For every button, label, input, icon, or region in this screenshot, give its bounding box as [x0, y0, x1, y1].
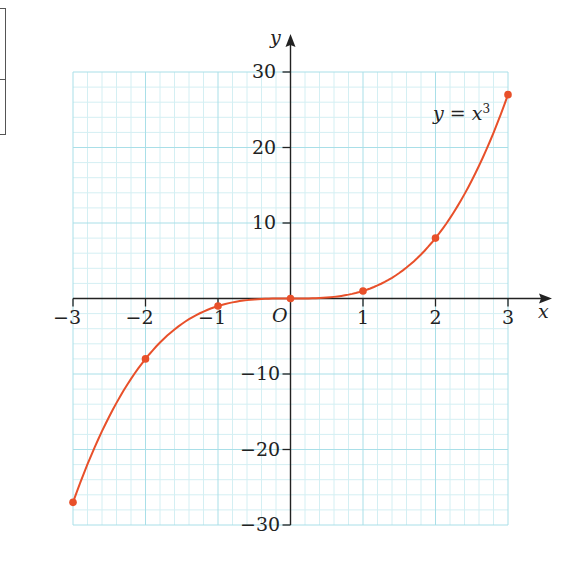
x-tick-label: 1 [357, 306, 369, 328]
x-tick-label: −2 [126, 306, 154, 328]
x-tick-label: −3 [53, 306, 81, 328]
x-axis-label: x [538, 300, 549, 322]
y-tick-label: −30 [240, 513, 280, 535]
x-tick-label: −1 [198, 306, 226, 328]
y-tick-label: 30 [252, 60, 276, 82]
cubic-function-graph [0, 0, 579, 564]
origin-label: O [272, 304, 288, 326]
y-tick-label: −20 [240, 438, 280, 460]
x-tick-label: 2 [430, 306, 442, 328]
y-tick-label: −10 [240, 362, 280, 384]
y-axis-label: y [270, 26, 281, 48]
y-tick-label: 10 [252, 211, 276, 233]
x-tick-label: 3 [502, 306, 514, 328]
y-tick-label: 20 [252, 136, 276, 158]
function-label: y = x3 [433, 102, 490, 124]
